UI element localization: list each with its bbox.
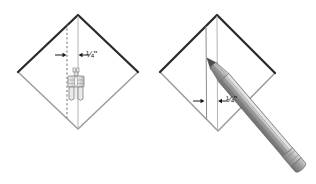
measurement-label-left: ¼" <box>86 49 97 59</box>
drawn-quarter-inch-line <box>206 26 207 120</box>
measurement-label-right: ¼" <box>226 94 237 104</box>
presser-foot-screw <box>75 69 77 71</box>
fraction-left: ¼" <box>86 48 97 59</box>
presser-foot-left-toe <box>69 87 74 100</box>
presser-foot-neck <box>74 72 78 76</box>
presser-foot-panel <box>18 15 138 129</box>
presser-foot-right-toe <box>78 87 83 100</box>
presser-foot-needle-slot <box>75 77 77 86</box>
measure-arrows-left <box>55 53 89 57</box>
measure-arrows-right <box>193 99 228 103</box>
presser-foot-icon <box>68 68 84 100</box>
fraction-right: ¼" <box>226 93 237 104</box>
instruction-illustration <box>0 0 316 184</box>
